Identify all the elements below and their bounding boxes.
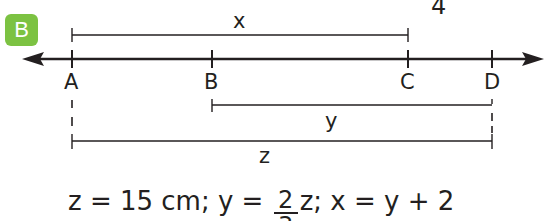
segment-label-x: x [233,11,245,32]
fraction-numerator: 2 [278,188,293,212]
segment-y [212,99,492,112]
point-label-b: B [204,72,218,93]
segment-label-z: z [259,146,270,167]
segment-z [72,134,492,149]
main-axis [22,50,544,68]
point-label-c: C [400,72,415,93]
formula-part2: z; x = y + 2 [300,186,455,216]
segment-label-y: y [325,111,337,132]
point-label-d: D [484,72,500,93]
fraction: 2 3 [274,188,298,221]
fraction-denominator: 3 [278,214,293,222]
formula: z = 15 cm; y = 2 3 z; x = y + 2 [68,182,454,220]
formula-part1: z = 15 cm; y = [68,186,272,216]
point-label-a: A [64,72,78,93]
